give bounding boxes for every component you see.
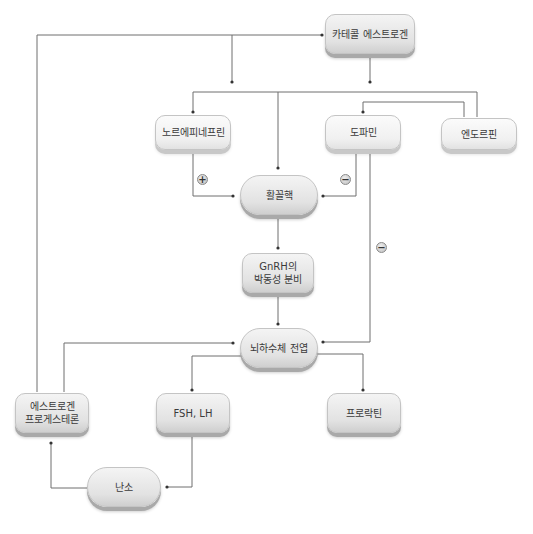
node-gnrh-pulsatile-secretion: GnRH의 박동성 분비 — [242, 253, 314, 293]
node-ovary: 난소 — [87, 467, 161, 507]
node-estrogen-progesterone: 에스트로겐 프로게스테론 — [15, 393, 89, 433]
node-label: 활꼴핵 — [266, 189, 293, 202]
node-label: 프로락틴 — [346, 407, 382, 420]
node-label: 난소 — [115, 481, 133, 494]
minus-sign-icon: − — [340, 174, 351, 185]
node-arcuate-nucleus: 활꼴핵 — [240, 175, 318, 215]
node-label: 에스트로겐 프로게스테론 — [25, 400, 79, 426]
node-label: FSH, LH — [174, 407, 213, 420]
node-label: 카테콜 에스트로겐 — [332, 28, 407, 41]
node-label: 뇌하수체 전엽 — [250, 342, 307, 355]
node-prolactin: 프로락틴 — [327, 393, 401, 433]
node-label: 엔도르핀 — [461, 128, 497, 141]
node-fsh-lh: FSH, LH — [156, 393, 230, 433]
node-dopamine: 도파민 — [325, 115, 401, 150]
node-norepinephrine: 노르에피네프린 — [155, 115, 231, 150]
node-label: 노르에피네프린 — [162, 126, 225, 139]
node-label: GnRH의 박동성 분비 — [254, 260, 302, 286]
node-anterior-pituitary: 뇌하수체 전엽 — [240, 328, 318, 368]
node-endorphin: 엔도르핀 — [441, 118, 517, 150]
minus-sign-icon: − — [376, 242, 387, 253]
node-label: 도파민 — [350, 126, 377, 139]
plus-sign-icon: + — [197, 174, 208, 185]
node-catechol-estrogen: 카테콜 에스트로겐 — [325, 14, 415, 54]
